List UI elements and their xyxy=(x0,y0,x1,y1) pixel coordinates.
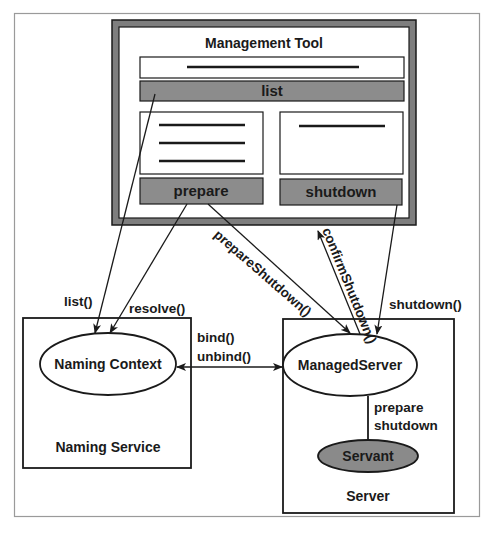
shutdown-call-label: shutdown() xyxy=(389,297,462,312)
naming-service-label: Naming Service xyxy=(55,439,160,455)
naming-context-label: Naming Context xyxy=(54,356,162,372)
prepare-shutdown-internal-label-2: shutdown xyxy=(374,418,438,433)
unbind-call-label: unbind() xyxy=(197,349,251,364)
prepare-button-label: prepare xyxy=(173,182,228,199)
list-call-label: list() xyxy=(64,294,93,309)
architecture-diagram: Management Tool list prepare shutdown xyxy=(0,0,489,536)
resolve-call-label: resolve() xyxy=(129,301,185,316)
managed-server-label: ManagedServer xyxy=(298,357,403,373)
management-tool-title: Management Tool xyxy=(205,35,323,51)
list-button-label: list xyxy=(261,82,283,99)
servant-label: Servant xyxy=(342,448,394,464)
prepare-shutdown-internal-label-1: prepare xyxy=(374,400,424,415)
management-tool-window: Management Tool list prepare shutdown xyxy=(112,20,416,225)
server-label: Server xyxy=(346,488,390,504)
list-button[interactable]: list xyxy=(140,81,404,101)
right-list-panel[interactable] xyxy=(280,112,403,174)
bind-call-label: bind() xyxy=(197,330,234,345)
prepare-button[interactable]: prepare xyxy=(140,178,263,204)
shutdown-button-label: shutdown xyxy=(306,183,377,200)
shutdown-button[interactable]: shutdown xyxy=(280,179,402,205)
